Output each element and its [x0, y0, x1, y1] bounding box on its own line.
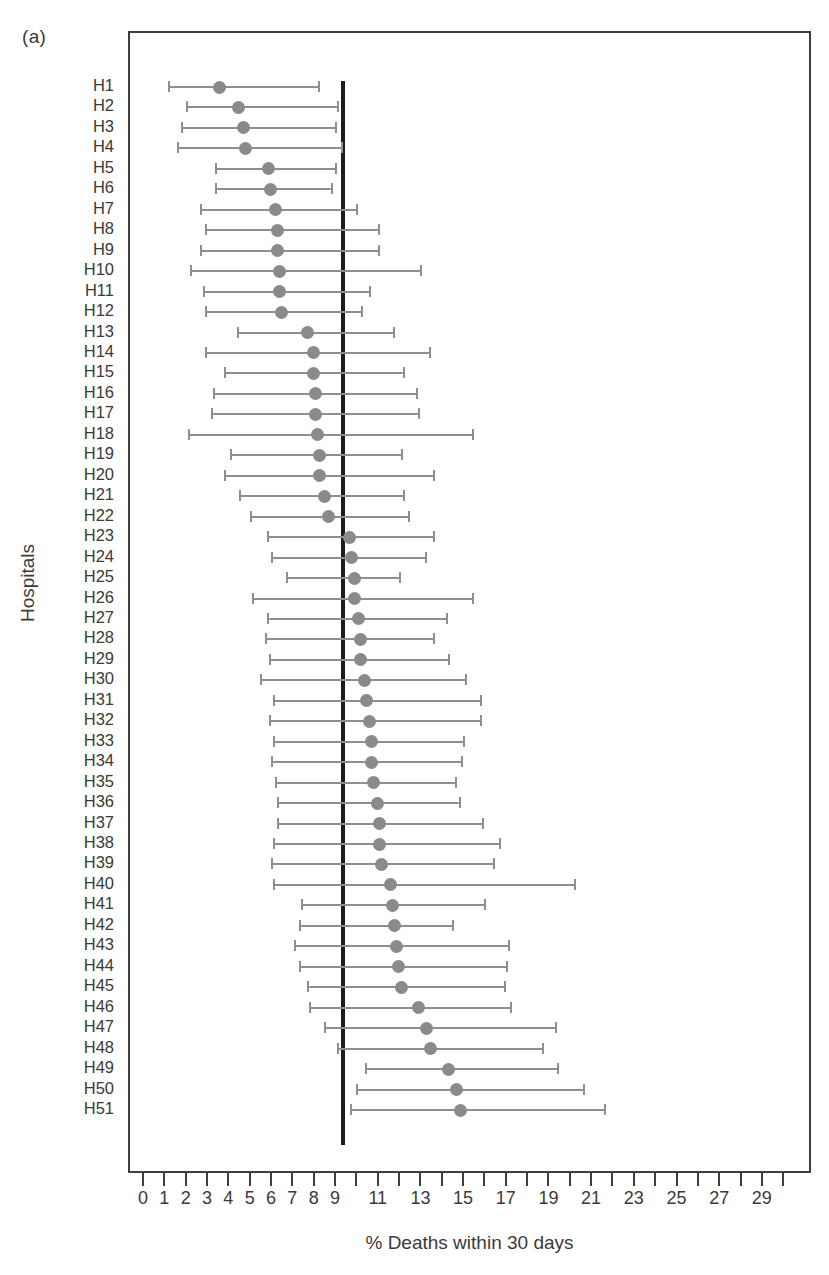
category-label-h34: H34 — [84, 752, 114, 768]
confidence-interval-line — [215, 168, 337, 170]
ci-lower-cap — [267, 531, 269, 542]
category-label-h31: H31 — [84, 691, 114, 707]
estimate-marker — [384, 878, 397, 891]
ci-lower-cap — [273, 879, 275, 890]
forest-plot-figure: (a) Hospitals H1H2H3H4H5H6H7H8H9H10H11H1… — [0, 0, 829, 1275]
ci-lower-cap — [200, 245, 202, 256]
x-axis-tick — [398, 1173, 400, 1186]
estimate-marker — [343, 531, 356, 544]
ci-upper-cap — [401, 449, 403, 460]
category-label-h3: H3 — [93, 118, 114, 134]
x-axis-tick — [142, 1173, 144, 1186]
estimate-marker — [275, 306, 288, 319]
x-axis-tick-label: 13 — [410, 1188, 430, 1209]
category-label-h29: H29 — [84, 650, 114, 666]
estimate-marker — [309, 387, 322, 400]
ci-lower-cap — [237, 327, 239, 338]
x-axis-tick — [206, 1173, 208, 1186]
ci-upper-cap — [452, 920, 454, 931]
x-axis-tick — [270, 1173, 272, 1186]
x-axis-tick — [441, 1173, 443, 1186]
estimate-marker — [232, 101, 245, 114]
estimate-marker — [365, 735, 378, 748]
confidence-interval-line — [177, 147, 343, 149]
x-axis-tick — [676, 1173, 678, 1186]
x-axis-tick-label: 7 — [287, 1188, 297, 1209]
confidence-interval-line — [186, 106, 340, 108]
confidence-interval-line — [200, 250, 379, 252]
confidence-interval-line — [365, 1068, 559, 1070]
ci-lower-cap — [294, 940, 296, 951]
ci-lower-cap — [224, 367, 226, 378]
estimate-marker — [271, 244, 284, 257]
ci-lower-cap — [271, 552, 273, 563]
category-label-h22: H22 — [84, 507, 114, 523]
estimate-marker — [237, 121, 250, 134]
ci-lower-cap — [205, 306, 207, 317]
ci-lower-cap — [252, 593, 254, 604]
estimate-marker — [322, 510, 335, 523]
x-axis-tick — [569, 1173, 571, 1186]
confidence-interval-line — [324, 1027, 557, 1029]
category-label-h17: H17 — [84, 404, 114, 420]
ci-lower-cap — [168, 81, 170, 92]
ci-upper-cap — [429, 347, 431, 358]
confidence-interval-line — [203, 291, 372, 293]
estimate-marker — [318, 490, 331, 503]
category-label-h48: H48 — [84, 1039, 114, 1055]
category-label-h50: H50 — [84, 1080, 114, 1096]
ci-lower-cap — [213, 388, 215, 399]
ci-lower-cap — [205, 224, 207, 235]
category-label-h1: H1 — [93, 77, 114, 93]
confidence-interval-line — [265, 638, 436, 640]
ci-upper-cap — [506, 961, 508, 972]
ci-lower-cap — [356, 1084, 358, 1095]
x-axis-tick-label: 3 — [202, 1188, 212, 1209]
ci-lower-cap — [181, 122, 183, 133]
ci-lower-cap — [273, 736, 275, 747]
ci-lower-cap — [307, 981, 309, 992]
ci-upper-cap — [433, 531, 435, 542]
category-label-h19: H19 — [84, 445, 114, 461]
x-axis-tick-label: 9 — [330, 1188, 340, 1209]
estimate-marker — [367, 776, 380, 789]
category-label-h12: H12 — [84, 302, 114, 318]
ci-upper-cap — [472, 593, 474, 604]
confidence-interval-line — [168, 86, 320, 88]
ci-upper-cap — [416, 388, 418, 399]
estimate-marker — [392, 960, 405, 973]
x-axis-tick — [163, 1173, 165, 1186]
ci-lower-cap — [269, 715, 271, 726]
ci-lower-cap — [299, 961, 301, 972]
x-axis-ticks — [128, 1173, 811, 1187]
x-axis-tick — [505, 1173, 507, 1186]
category-label-h42: H42 — [84, 916, 114, 932]
x-axis-tick-labels: 012345678911131517192123252729 — [128, 1188, 811, 1214]
ci-upper-cap — [574, 879, 576, 890]
ci-upper-cap — [420, 265, 422, 276]
ci-upper-cap — [403, 367, 405, 378]
ci-lower-cap — [250, 511, 252, 522]
category-label-h39: H39 — [84, 854, 114, 870]
ci-lower-cap — [265, 633, 267, 644]
ci-upper-cap — [318, 81, 320, 92]
ci-lower-cap — [337, 1043, 339, 1054]
estimate-marker — [301, 326, 314, 339]
confidence-interval-line — [237, 332, 395, 334]
category-label-h41: H41 — [84, 895, 114, 911]
ci-upper-cap — [482, 818, 484, 829]
category-label-h35: H35 — [84, 773, 114, 789]
ci-lower-cap — [203, 286, 205, 297]
estimate-marker — [375, 858, 388, 871]
estimate-marker — [313, 469, 326, 482]
category-label-h38: H38 — [84, 834, 114, 850]
ci-lower-cap — [299, 920, 301, 931]
estimate-marker — [390, 940, 403, 953]
ci-lower-cap — [205, 347, 207, 358]
ci-lower-cap — [215, 183, 217, 194]
estimate-marker — [309, 408, 322, 421]
ci-upper-cap — [425, 552, 427, 563]
confidence-interval-line — [190, 270, 423, 272]
estimate-marker — [420, 1022, 433, 1035]
ci-upper-cap — [403, 490, 405, 501]
